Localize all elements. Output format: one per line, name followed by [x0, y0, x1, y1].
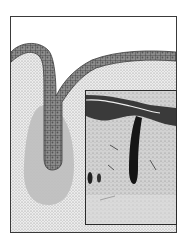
micrograph-inset	[86, 91, 176, 224]
figure: Illustration of an epithelial invaginati…	[0, 0, 186, 245]
